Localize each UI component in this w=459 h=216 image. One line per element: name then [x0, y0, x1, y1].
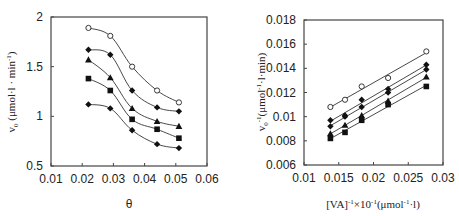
x-tick-label: 0.04 [133, 172, 157, 186]
x-tick-label: 0.02 [71, 172, 95, 186]
x-tick-label: 0.05 [164, 172, 188, 186]
diamond-marker [327, 117, 333, 123]
left-chart: 0.010.020.030.040.050.060.511.52θv0 (μmo… [0, 0, 230, 216]
x-tick-label: 0.06 [195, 172, 219, 186]
triangle-marker [85, 56, 92, 62]
circle-marker [359, 84, 364, 89]
y-tick-label: 2 [36, 10, 43, 24]
y-tick-label: 0.016 [266, 37, 296, 51]
plot-frame [51, 17, 207, 166]
diamond-marker [154, 141, 160, 147]
series-open-circle [86, 25, 182, 105]
circle-marker [176, 100, 181, 105]
series-group [85, 25, 182, 151]
diamond-marker [107, 105, 113, 111]
series-open-circle [328, 49, 429, 110]
circle-marker [86, 25, 91, 30]
diamond-marker [85, 47, 91, 53]
square-marker [176, 135, 182, 141]
square-marker [129, 117, 135, 123]
series-square [328, 84, 430, 142]
x-tick-label: 0.015 [324, 171, 354, 185]
square-marker [385, 102, 391, 108]
y-tick-label: 1 [36, 109, 43, 123]
circle-marker [328, 104, 333, 109]
series-diamond-upper [85, 47, 182, 115]
y-axis-label: v0 (μmol·l · min-1) [5, 51, 20, 132]
y-tick-label: 0.5 [26, 159, 43, 173]
circle-marker [108, 33, 113, 38]
x-tick-label: 0.01 [292, 171, 316, 185]
diamond-marker [85, 101, 91, 107]
series-triangle [327, 73, 430, 136]
square-marker [424, 84, 430, 90]
square-marker [328, 136, 334, 142]
diamond-marker [154, 104, 160, 110]
circle-marker [424, 49, 429, 54]
y-axis-ticks: 0.511.52 [26, 10, 54, 173]
diamond-marker [423, 66, 429, 72]
series-group [327, 49, 430, 141]
left-chart-svg: 0.010.020.030.040.050.060.511.52θv0 (μmo… [0, 0, 230, 216]
y-tick-label: 0.008 [266, 134, 296, 148]
square-marker [107, 88, 113, 94]
x-tick-label: 0.025 [393, 171, 423, 185]
x-tick-label: 0.03 [431, 171, 455, 185]
plot-frame [304, 20, 443, 165]
diamond-marker [176, 108, 182, 114]
y-tick-label: 0.006 [266, 158, 296, 172]
series-line [88, 50, 178, 112]
y-tick-label: 0.012 [266, 86, 296, 100]
x-axis-label: θ [126, 197, 133, 211]
triangle-marker [154, 118, 161, 124]
y-axis-ticks: 0.0060.0080.010.0120.0140.0160.018 [266, 13, 307, 172]
x-tick-label: 0.02 [362, 171, 386, 185]
y-tick-label: 0.014 [266, 61, 296, 75]
triangle-marker [327, 130, 334, 136]
x-tick-label: 0.01 [39, 172, 63, 186]
circle-marker [342, 97, 347, 102]
circle-marker [154, 88, 159, 93]
x-axis-label: [VA]-1×10-1(μmol-1·l) [326, 198, 420, 211]
series-line [88, 60, 178, 127]
right-chart: 0.010.0150.020.0250.030.0060.0080.010.01… [229, 0, 459, 216]
y-tick-label: 0.01 [273, 110, 297, 124]
square-marker [359, 117, 365, 123]
circle-marker [130, 64, 135, 69]
triangle-marker [358, 112, 365, 118]
square-marker [154, 126, 160, 132]
square-marker [86, 76, 92, 82]
y-tick-label: 0.018 [266, 13, 296, 27]
circle-marker [385, 75, 390, 80]
y-tick-label: 1.5 [26, 60, 43, 74]
diamond-marker [176, 145, 182, 151]
x-tick-label: 0.03 [102, 172, 126, 186]
triangle-marker [342, 122, 349, 128]
square-marker [342, 130, 348, 136]
right-chart-svg: 0.010.0150.020.0250.030.0060.0080.010.01… [229, 0, 459, 216]
triangle-marker [423, 73, 430, 79]
